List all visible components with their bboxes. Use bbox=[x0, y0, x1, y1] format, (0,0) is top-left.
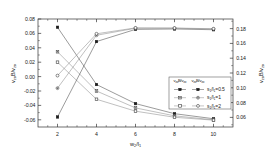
x-tick-label: 8 bbox=[173, 131, 176, 137]
y-right-tick-label: 0.16 bbox=[236, 40, 246, 46]
y-right-tick-label: 0.14 bbox=[236, 55, 246, 61]
x-tick-label: 10 bbox=[211, 131, 217, 137]
legend-header-right: vzoB/vzo bbox=[192, 78, 205, 84]
legend-label: s1/l1=2 bbox=[207, 103, 221, 110]
x-tick-label: 4 bbox=[95, 131, 98, 137]
y-left-tick-label: 0.06 bbox=[25, 30, 35, 36]
y-left-tick-label: 0.04 bbox=[25, 45, 35, 51]
y-left-tick-label: 0.08 bbox=[25, 16, 35, 22]
y-right-tick-label: 0.12 bbox=[236, 70, 246, 76]
y-right-tick-label: 0.06 bbox=[236, 114, 246, 120]
legend-label: s1/l1=1 bbox=[207, 94, 221, 101]
y-right-tick-label: 0.08 bbox=[236, 100, 246, 106]
y-axis-right-title: vzoB/vzo bbox=[258, 64, 265, 83]
y-left-tick-label: -0.04 bbox=[24, 102, 35, 108]
y-axis-left-title: vzoB/vzo bbox=[10, 64, 17, 83]
x-tick-label: 2 bbox=[56, 131, 59, 137]
y-left-tick-label: -0.02 bbox=[24, 88, 35, 94]
x-tick-label: 6 bbox=[134, 131, 137, 137]
y-right-tick-label: 0.10 bbox=[236, 85, 246, 91]
x-axis-title: w2/l1 bbox=[130, 141, 141, 148]
y-left-tick-label: 0.02 bbox=[25, 59, 35, 65]
y-left-tick-label: -0.06 bbox=[24, 117, 35, 123]
y-left-tick-label: 0.00 bbox=[25, 74, 35, 80]
legend-header-left: vzoB/vzo bbox=[174, 78, 187, 84]
y-right-tick-label: 0.18 bbox=[236, 26, 246, 32]
legend-label: s1/l1=0.5 bbox=[207, 86, 225, 93]
